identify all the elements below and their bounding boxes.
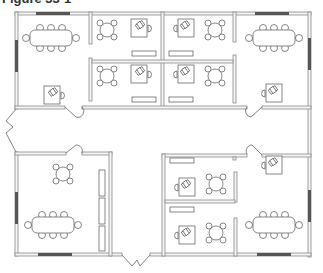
round-table-n3 bbox=[97, 66, 117, 86]
desk-ne bbox=[262, 84, 283, 102]
desk-n1 bbox=[131, 19, 152, 37]
desk-n4 bbox=[174, 65, 195, 83]
desk-s1 bbox=[175, 178, 196, 196]
conference-table-se bbox=[246, 212, 303, 239]
desk-nw bbox=[44, 86, 65, 104]
floor-plan bbox=[0, 0, 323, 273]
west-entrance bbox=[6, 109, 16, 152]
conference-table-nw bbox=[23, 25, 80, 52]
conference-table-sw bbox=[25, 212, 82, 239]
round-table-n2 bbox=[205, 20, 225, 40]
round-table-sw bbox=[53, 164, 73, 184]
round-table-s2 bbox=[206, 223, 226, 243]
desk-s2 bbox=[175, 226, 196, 244]
desk-n2 bbox=[174, 19, 195, 37]
round-table-n1 bbox=[97, 20, 117, 40]
conference-table-ne bbox=[246, 25, 303, 52]
desk-n3 bbox=[131, 65, 152, 83]
round-table-s1 bbox=[206, 174, 226, 194]
south-entrance bbox=[122, 255, 150, 266]
desk-se bbox=[262, 156, 283, 174]
round-table-n4 bbox=[205, 66, 225, 86]
